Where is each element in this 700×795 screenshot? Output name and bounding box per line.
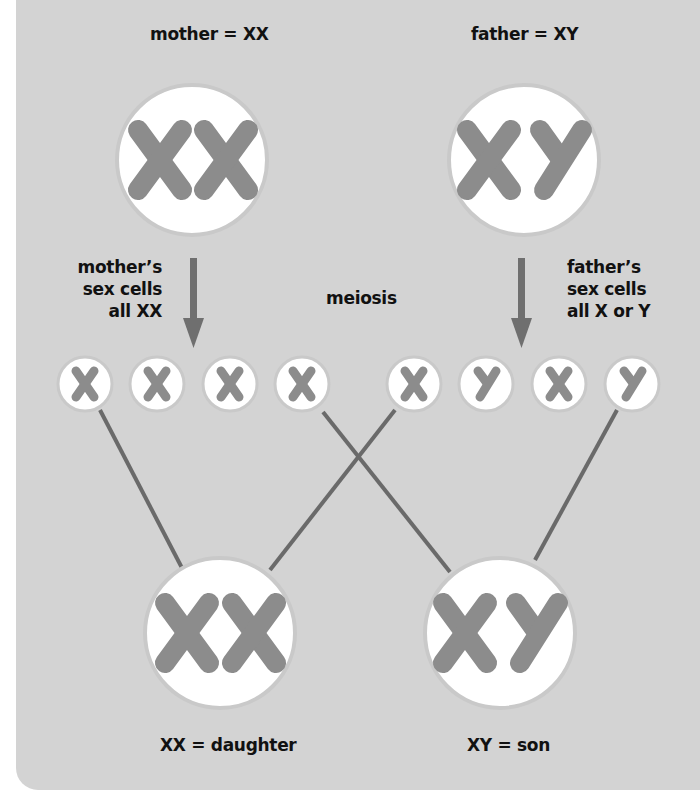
- son-label: XY = son: [467, 734, 550, 756]
- mother-cells-line-2: sex cells: [40, 278, 162, 300]
- father-gamete-1: [387, 357, 441, 411]
- mother-cells-line-1: mother’s: [40, 256, 162, 278]
- daughter-cell: [145, 558, 295, 708]
- mother-arrow-icon: [183, 258, 204, 348]
- father-gamete-3: [532, 357, 586, 411]
- father-cells-line-3: all X or Y: [567, 300, 650, 322]
- mother-cells-annotation: mother’s sex cells all XX: [40, 256, 162, 322]
- father-cells-annotation: father’s sex cells all X or Y: [567, 256, 650, 322]
- mother-gamete-3: [203, 357, 257, 411]
- mother-label: mother = XX: [150, 23, 269, 45]
- father-gamete-2: [459, 357, 513, 411]
- inheritance-diagram: [0, 0, 700, 795]
- mother-cells-line-3: all XX: [40, 300, 162, 322]
- line-mother-gamete-1-to-daughter: [100, 410, 182, 568]
- father-cells-line-2: sex cells: [567, 278, 650, 300]
- line-father-gamete-1-to-daughter: [270, 410, 395, 570]
- father-cells-line-1: father’s: [567, 256, 650, 278]
- father-gamete-4: [605, 357, 659, 411]
- mother-gamete-2: [130, 357, 184, 411]
- father-cell: [449, 85, 599, 235]
- father-label: father = XY: [471, 23, 578, 45]
- son-cell: [425, 558, 575, 708]
- meiosis-label: meiosis: [326, 287, 397, 309]
- connection-lines: [100, 410, 617, 572]
- mother-gamete-4: [275, 357, 329, 411]
- mother-gamete-1: [58, 357, 112, 411]
- daughter-label: XX = daughter: [160, 734, 296, 756]
- line-mother-gamete-4-to-son: [323, 412, 450, 572]
- line-father-gamete-4-to-son: [535, 410, 617, 560]
- mother-gametes: [58, 357, 329, 411]
- father-arrow-icon: [511, 258, 532, 348]
- father-gametes: [387, 357, 659, 411]
- mother-cell: [117, 85, 267, 235]
